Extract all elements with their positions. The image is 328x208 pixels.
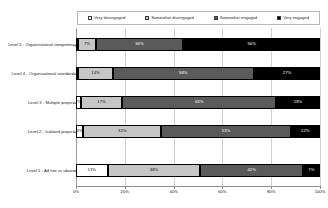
- category-label: Level 3 - Multiple projects: [8, 101, 76, 105]
- legend-item-somewhat-disengaged[interactable]: Somewhat disengaged: [135, 16, 204, 20]
- bar-segment-value-label: 27%: [283, 71, 292, 75]
- bar-row[interactable]: 1%14%58%27%: [76, 67, 320, 80]
- legend-item-very-engaged[interactable]: Very engaged: [267, 16, 319, 20]
- bar-segment-value-label: 12%: [301, 129, 310, 133]
- bar-row[interactable]: 3%32%53%12%: [76, 125, 320, 138]
- legend-item-very-disengaged[interactable]: Very disengaged: [78, 16, 135, 20]
- bar-segment-value-label: 63%: [195, 100, 204, 104]
- bar-segment[interactable]: 13%: [76, 164, 108, 177]
- bar-segment[interactable]: 42%: [200, 164, 302, 177]
- bar-segment-value-label: 17%: [97, 100, 106, 104]
- x-tick-label: 0%: [73, 190, 79, 194]
- legend-swatch-icon: [145, 16, 149, 20]
- x-tick-label: 100%: [315, 190, 326, 194]
- legend-item-somewhat-engaged[interactable]: Somewhat engaged: [204, 16, 267, 20]
- y-tick-mark: [73, 132, 76, 133]
- plot-bottom-axis: [76, 186, 321, 187]
- bar-segment[interactable]: 32%: [83, 125, 161, 138]
- stacked-bar-chart: Very disengaged Somewhat disengaged Some…: [0, 0, 328, 208]
- bar-segment-value-label: 36%: [135, 42, 144, 46]
- x-tick-label: 60%: [218, 190, 226, 194]
- bar-row[interactable]: 2%17%63%18%: [76, 96, 320, 109]
- bar-row[interactable]: 13%38%42%7%: [76, 164, 320, 177]
- bar-segment-value-label: 13%: [88, 168, 97, 172]
- gridline: [320, 28, 321, 187]
- x-tick-label: 40%: [169, 190, 177, 194]
- bar-segment-value-label: 42%: [247, 168, 256, 172]
- category-label: Level 5 - Organisational competency: [8, 43, 76, 47]
- category-label: Level 4 - Organisational standards: [8, 72, 76, 76]
- bar-segment[interactable]: 7%: [303, 164, 320, 177]
- chart-legend: Very disengaged Somewhat disengaged Some…: [77, 11, 320, 25]
- legend-swatch-icon: [88, 16, 92, 20]
- y-tick-mark: [73, 74, 76, 75]
- bar-segment-value-label: 14%: [91, 71, 100, 75]
- bar-segment[interactable]: 14%: [78, 67, 112, 80]
- bar-segment-value-label: 58%: [179, 71, 188, 75]
- category-label: Level 2 - Isolated projects: [8, 130, 76, 134]
- x-tick-label: 20%: [121, 190, 129, 194]
- x-tick-label: 80%: [267, 190, 275, 194]
- bar-segment-value-label: 18%: [294, 100, 303, 104]
- bar-segment[interactable]: 38%: [108, 164, 201, 177]
- bar-segment[interactable]: 56%: [183, 38, 320, 51]
- bar-segment[interactable]: 7%: [78, 38, 95, 51]
- y-tick-mark: [73, 171, 76, 172]
- bar-segment[interactable]: 27%: [254, 67, 320, 80]
- y-tick-mark: [73, 103, 76, 104]
- legend-label: Very disengaged: [94, 16, 125, 20]
- bar-segment-value-label: 7%: [84, 42, 90, 46]
- bar-segment[interactable]: 58%: [113, 67, 255, 80]
- bar-segment[interactable]: 36%: [96, 38, 184, 51]
- bar-segment-value-label: 56%: [247, 42, 256, 46]
- bar-segment-value-label: 38%: [150, 168, 159, 172]
- category-label: Level 1 - Ad hoc or absent: [8, 169, 76, 173]
- legend-label: Somewhat engaged: [220, 16, 257, 20]
- bar-segment[interactable]: 3%: [76, 125, 83, 138]
- bar-segment[interactable]: 18%: [276, 96, 320, 109]
- bar-segment[interactable]: 17%: [81, 96, 122, 109]
- bar-segment-value-label: 7%: [308, 168, 314, 172]
- y-tick-mark: [73, 45, 76, 46]
- bar-segment-value-label: 32%: [118, 129, 127, 133]
- bar-segment-value-label: 53%: [222, 129, 231, 133]
- bar-segment[interactable]: 12%: [291, 125, 320, 138]
- legend-label: Very engaged: [283, 16, 309, 20]
- bar-segment-value-label: 3%: [77, 129, 83, 133]
- legend-swatch-icon: [277, 16, 281, 20]
- bar-segment[interactable]: 53%: [161, 125, 290, 138]
- legend-swatch-icon: [214, 16, 218, 20]
- legend-label: Somewhat disengaged: [151, 16, 194, 20]
- bar-segment[interactable]: 63%: [122, 96, 276, 109]
- bar-row[interactable]: 1%7%36%56%: [76, 38, 320, 51]
